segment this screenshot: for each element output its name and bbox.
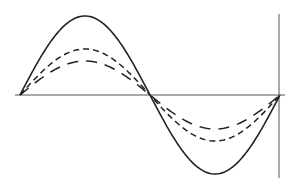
- sine-wave-diagram: [0, 0, 296, 186]
